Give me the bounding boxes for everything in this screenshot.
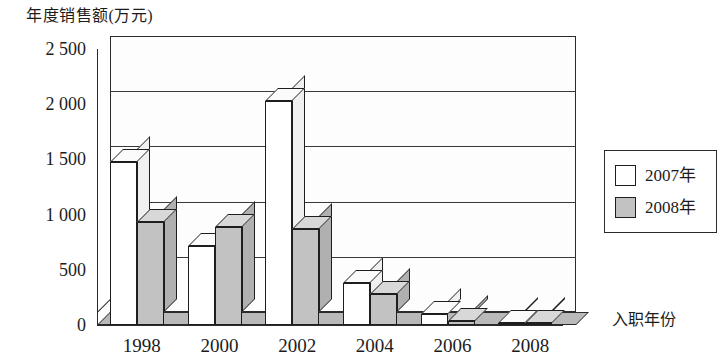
bar-2000-2008年	[215, 227, 242, 325]
legend-entry: 2008年	[615, 191, 716, 223]
bar-2006-2008年	[448, 321, 475, 325]
x-axis-tick-label: 2004	[335, 336, 415, 356]
bar-2006-2007年	[421, 314, 448, 325]
x-axis-tick-label: 2002	[257, 336, 337, 356]
y-axis-tick-label: 1 000	[8, 206, 86, 224]
bar-2004-2007年	[343, 283, 370, 325]
bar-2004-2008年	[370, 294, 397, 325]
x-axis-tick-label: 1998	[102, 336, 182, 356]
y-axis-tick-label: 2 500	[8, 40, 86, 58]
plot-area	[97, 36, 576, 325]
legend-label: 2007年	[645, 167, 696, 184]
x-axis-tick-label: 2008	[490, 336, 570, 356]
bar-2008-2008年	[525, 323, 552, 325]
y-axis-tick-label: 500	[8, 261, 86, 279]
bars-layer	[97, 36, 576, 325]
bar-chart: 年度销售额(万元) 05001 0001 5002 0002 500 19982…	[0, 0, 720, 363]
y-axis-tick-label: 0	[8, 316, 86, 334]
legend: 2007年 2008年	[604, 150, 717, 233]
bar-2000-2007年	[188, 246, 215, 325]
bar-1998-2007年	[110, 162, 137, 325]
bar-2008-2007年	[498, 323, 525, 325]
legend-entry: 2007年	[615, 159, 716, 191]
bar-1998-2008年	[137, 222, 164, 325]
legend-swatch-2008-icon	[615, 197, 636, 218]
bar-top-face	[448, 308, 488, 321]
y-axis-tick-labels: 05001 0001 5002 0002 500	[0, 0, 86, 363]
x-axis-tick-label: 2006	[413, 336, 493, 356]
x-axis-line	[97, 325, 563, 326]
bar-2002-2008年	[292, 229, 319, 325]
x-axis-tick-label: 2000	[180, 336, 260, 356]
legend-swatch-2007-icon	[615, 165, 636, 186]
legend-label: 2008年	[645, 199, 696, 216]
y-axis-tick-label: 1 500	[8, 150, 86, 168]
bar-top-face	[421, 301, 461, 314]
y-axis-tick-label: 2 000	[8, 95, 86, 113]
x-axis-title: 入职年份	[612, 306, 676, 330]
bar-2002-2007年	[265, 101, 292, 325]
